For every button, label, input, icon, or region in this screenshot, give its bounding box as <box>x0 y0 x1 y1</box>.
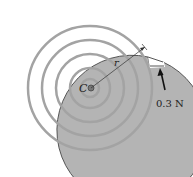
center-label: C <box>79 82 88 95</box>
diagram-canvas: C r 0.3 N <box>0 0 193 177</box>
force-label: 0.3 N <box>156 98 184 109</box>
